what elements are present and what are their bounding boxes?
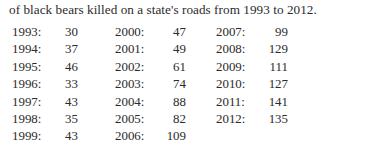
table-row: 1997: 43 2004: 88 2011: 141 bbox=[12, 94, 288, 111]
year-label-col3: 2012: bbox=[216, 111, 256, 128]
year-label-col3: 2010: bbox=[216, 76, 256, 93]
column-gap bbox=[78, 128, 115, 145]
column-gap bbox=[186, 128, 216, 145]
table-row: 1994: 37 2001: 49 2008: 129 bbox=[12, 41, 288, 58]
value-col1: 35 bbox=[52, 111, 78, 128]
value-col2: 49 bbox=[155, 41, 186, 58]
value-col1: 30 bbox=[52, 24, 78, 41]
value-col2: 109 bbox=[155, 128, 186, 145]
year-label-col2: 2001: bbox=[115, 41, 155, 58]
value-col2: 88 bbox=[155, 94, 186, 111]
value-col2: 82 bbox=[155, 111, 186, 128]
value-col2: 61 bbox=[155, 59, 186, 76]
value-col3: 111 bbox=[256, 59, 288, 76]
year-label-col1: 1993: bbox=[12, 24, 52, 41]
value-col1: 46 bbox=[52, 59, 78, 76]
column-gap bbox=[186, 111, 216, 128]
year-label-col2: 2000: bbox=[115, 24, 155, 41]
value-col1: 43 bbox=[52, 94, 78, 111]
year-label-col3: 2007: bbox=[216, 24, 256, 41]
year-label-col3: 2011: bbox=[216, 94, 256, 111]
value-col1: 37 bbox=[52, 41, 78, 58]
value-col2: 74 bbox=[155, 76, 186, 93]
column-gap bbox=[186, 76, 216, 93]
value-col1: 43 bbox=[52, 128, 78, 145]
year-label-col3 bbox=[216, 128, 256, 145]
document-page: of black bears killed on a state's roads… bbox=[0, 0, 370, 152]
table-body: 1993: 30 2000: 47 2007: 99 1994: 37 2001… bbox=[12, 24, 288, 146]
column-gap bbox=[186, 24, 216, 41]
value-col3 bbox=[256, 128, 288, 145]
year-label-col3: 2008: bbox=[216, 41, 256, 58]
year-label-col3: 2009: bbox=[216, 59, 256, 76]
value-col3: 99 bbox=[256, 24, 288, 41]
value-col2: 47 bbox=[155, 24, 186, 41]
column-gap bbox=[78, 59, 115, 76]
value-col3: 135 bbox=[256, 111, 288, 128]
column-gap bbox=[186, 41, 216, 58]
value-col1: 33 bbox=[52, 76, 78, 93]
column-gap bbox=[78, 76, 115, 93]
column-gap bbox=[78, 111, 115, 128]
year-label-col1: 1995: bbox=[12, 59, 52, 76]
table-row: 1993: 30 2000: 47 2007: 99 bbox=[12, 24, 288, 41]
column-gap bbox=[186, 94, 216, 111]
year-label-col2: 2003: bbox=[115, 76, 155, 93]
column-gap bbox=[78, 24, 115, 41]
caption-text: of black bears killed on a state's roads… bbox=[9, 2, 317, 18]
value-col3: 141 bbox=[256, 94, 288, 111]
year-label-col2: 2005: bbox=[115, 111, 155, 128]
year-label-col1: 1994: bbox=[12, 41, 52, 58]
table-row: 1995: 46 2002: 61 2009: 111 bbox=[12, 59, 288, 76]
year-label-col1: 1999: bbox=[12, 128, 52, 145]
table-row: 1996: 33 2003: 74 2010: 127 bbox=[12, 76, 288, 93]
bear-data-table: 1993: 30 2000: 47 2007: 99 1994: 37 2001… bbox=[12, 24, 288, 146]
year-label-col2: 2006: bbox=[115, 128, 155, 145]
table-row: 1998: 35 2005: 82 2012: 135 bbox=[12, 111, 288, 128]
value-col3: 127 bbox=[256, 76, 288, 93]
column-gap bbox=[186, 59, 216, 76]
year-label-col1: 1997: bbox=[12, 94, 52, 111]
column-gap bbox=[78, 94, 115, 111]
year-label-col2: 2004: bbox=[115, 94, 155, 111]
year-label-col1: 1998: bbox=[12, 111, 52, 128]
year-label-col2: 2002: bbox=[115, 59, 155, 76]
table-row: 1999: 43 2006: 109 bbox=[12, 128, 288, 145]
value-col3: 129 bbox=[256, 41, 288, 58]
column-gap bbox=[78, 41, 115, 58]
year-label-col1: 1996: bbox=[12, 76, 52, 93]
